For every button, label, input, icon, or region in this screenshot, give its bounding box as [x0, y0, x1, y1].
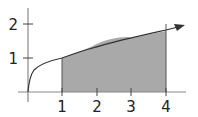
x-tick-label-4: 4	[161, 98, 171, 116]
x-tick-label-3: 3	[126, 98, 136, 116]
x-tick-label-2: 2	[92, 98, 102, 116]
y-tick-label-1: 1	[8, 50, 18, 68]
y-tick-label-2: 2	[8, 16, 18, 34]
curve-arrowhead-icon	[174, 24, 185, 31]
x-tick-label-1: 1	[57, 98, 67, 116]
sqrt-area-chart: 1 2 3 4 1 2	[0, 0, 198, 117]
